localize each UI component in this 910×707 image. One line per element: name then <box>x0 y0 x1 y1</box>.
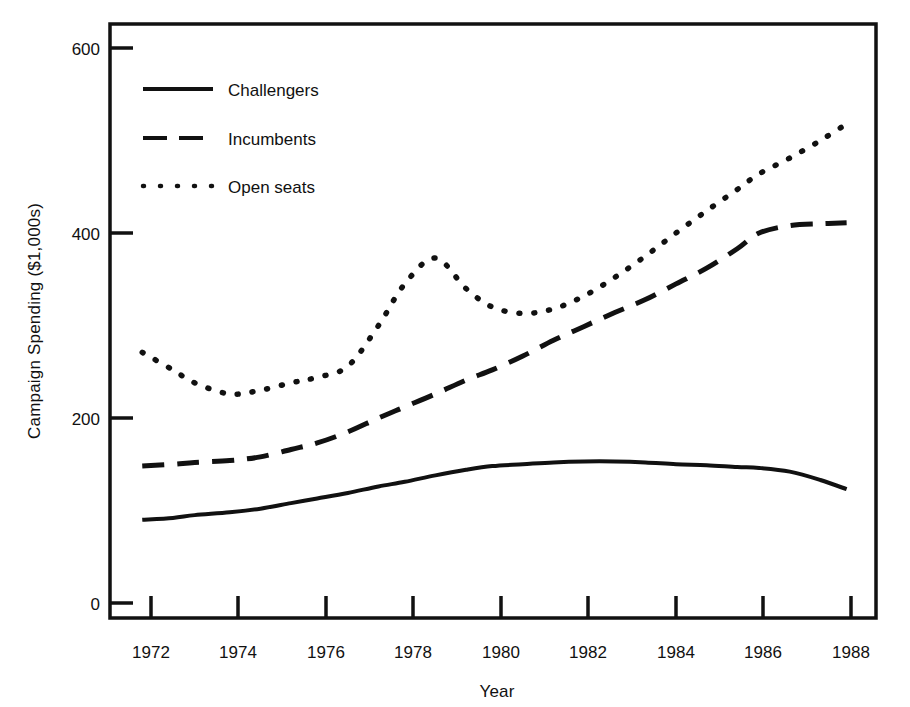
series-line-incumbents <box>142 223 846 466</box>
x-axis-ticks <box>151 596 851 618</box>
x-tick-label-1984: 1984 <box>657 643 695 662</box>
x-tick-label-1986: 1986 <box>744 643 782 662</box>
x-tick-label-1974: 1974 <box>219 643 257 662</box>
y-tick-label-400: 400 <box>72 225 100 244</box>
x-tick-label-1976: 1976 <box>307 643 345 662</box>
x-tick-label-1972: 1972 <box>132 643 170 662</box>
y-tick-label-200: 200 <box>72 410 100 429</box>
y-axis-title: Campaign Spending ($1,000s) <box>25 203 44 439</box>
chart-figure: 600 400 200 0 1972 1974 1976 1978 1980 1… <box>0 0 910 707</box>
legend-label-challengers: Challengers <box>228 81 319 100</box>
y-axis-ticks <box>110 48 133 603</box>
legend-label-open-seats: Open seats <box>228 178 315 197</box>
chart-legend: Challengers Incumbents Open seats <box>143 81 319 197</box>
x-tick-label-1978: 1978 <box>394 643 432 662</box>
y-axis-tick-labels: 600 400 200 0 <box>72 40 100 614</box>
legend-label-incumbents: Incumbents <box>228 130 316 149</box>
x-axis-title: Year <box>479 682 514 701</box>
series-line-open-seats <box>142 124 846 394</box>
x-tick-label-1988: 1988 <box>832 643 870 662</box>
y-tick-label-600: 600 <box>72 40 100 59</box>
plot-frame <box>110 24 876 618</box>
x-axis-tick-labels: 1972 1974 1976 1978 1980 1982 1984 1986 … <box>132 643 870 662</box>
y-tick-label-0: 0 <box>91 595 100 614</box>
series-line-challengers <box>142 461 846 519</box>
chart-svg: 600 400 200 0 1972 1974 1976 1978 1980 1… <box>0 0 910 707</box>
x-tick-label-1980: 1980 <box>482 643 520 662</box>
x-tick-label-1982: 1982 <box>569 643 607 662</box>
